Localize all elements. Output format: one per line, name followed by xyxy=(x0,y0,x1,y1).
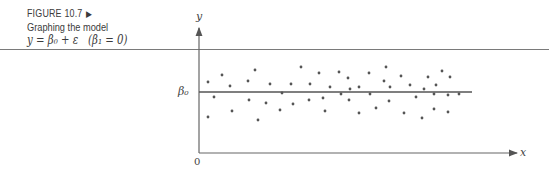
data-point xyxy=(269,83,272,86)
data-point xyxy=(423,88,426,91)
data-point xyxy=(248,99,251,102)
data-point xyxy=(322,97,325,100)
data-point xyxy=(389,86,392,89)
data-point xyxy=(347,77,350,80)
data-point xyxy=(231,110,234,113)
data-point xyxy=(358,86,361,89)
data-point xyxy=(368,72,371,75)
data-point xyxy=(458,93,461,96)
data-point xyxy=(447,94,450,97)
data-point xyxy=(400,75,403,78)
data-points xyxy=(207,66,461,122)
data-point xyxy=(385,66,388,69)
data-point xyxy=(415,96,418,99)
data-point xyxy=(213,96,216,99)
origin-label: 0 xyxy=(194,156,200,167)
data-point xyxy=(229,85,232,88)
data-point xyxy=(449,76,452,79)
data-point xyxy=(375,107,378,110)
data-point xyxy=(441,70,444,73)
data-point xyxy=(308,99,311,102)
data-point xyxy=(300,66,303,69)
y-axis-label: y xyxy=(195,10,203,23)
data-point xyxy=(247,80,250,83)
data-point xyxy=(279,109,282,112)
data-point xyxy=(329,86,332,89)
data-point xyxy=(318,72,321,75)
scatter-plot: y x 0 β₀ xyxy=(0,0,549,170)
data-point xyxy=(433,93,436,96)
data-point xyxy=(292,103,295,106)
data-point xyxy=(281,92,284,95)
data-point xyxy=(340,93,343,96)
intercept-label: β₀ xyxy=(177,85,189,98)
data-point xyxy=(290,83,293,86)
x-axis-label: x xyxy=(520,146,527,159)
data-point xyxy=(324,110,327,113)
data-point xyxy=(435,84,438,87)
data-point xyxy=(383,80,386,83)
data-point xyxy=(409,84,412,87)
data-point xyxy=(421,117,424,120)
data-point xyxy=(221,74,224,77)
data-point xyxy=(207,116,210,119)
data-point xyxy=(447,111,450,114)
data-point xyxy=(433,108,436,111)
data-point xyxy=(254,69,257,72)
data-point xyxy=(349,88,352,91)
data-point xyxy=(388,100,391,103)
data-point xyxy=(338,71,341,74)
data-point xyxy=(358,112,361,115)
data-point xyxy=(369,93,372,96)
data-point xyxy=(207,81,210,84)
data-point xyxy=(427,76,430,79)
data-point xyxy=(348,99,351,102)
data-point xyxy=(309,83,312,86)
data-point xyxy=(257,119,260,122)
data-point xyxy=(265,102,268,105)
data-point xyxy=(403,112,406,115)
